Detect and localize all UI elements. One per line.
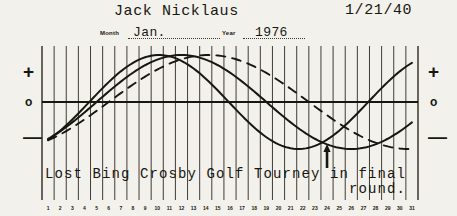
day-cell-13: 13 (188, 203, 200, 214)
day-cell-4: 4 (78, 203, 90, 214)
biorhythm-sheet: Jack Nicklaus 1/21/40 Month Jan. Year 19… (0, 0, 457, 216)
day-number-strip: 1234567891011121314151617181920212223242… (42, 203, 418, 214)
day-cell-23: 23 (309, 203, 321, 214)
day-cell-19: 19 (260, 203, 272, 214)
day-cell-26: 26 (345, 203, 357, 214)
day-cell-8: 8 (127, 203, 139, 214)
day-cell-16: 16 (224, 203, 236, 214)
day-cell-5: 5 (91, 203, 103, 214)
day-cell-18: 18 (248, 203, 260, 214)
day-cell-28: 28 (369, 203, 381, 214)
day-cell-15: 15 (212, 203, 224, 214)
day-cell-1: 1 (42, 203, 54, 214)
day-cell-9: 9 (139, 203, 151, 214)
day-cell-11: 11 (163, 203, 175, 214)
day-cell-14: 14 (200, 203, 212, 214)
day-cell-29: 29 (382, 203, 394, 214)
day-marker-arrow (323, 144, 330, 168)
day-cell-24: 24 (321, 203, 333, 214)
day-cell-22: 22 (297, 203, 309, 214)
day-cell-27: 27 (357, 203, 369, 214)
day-cell-25: 25 (333, 203, 345, 214)
day-cell-17: 17 (236, 203, 248, 214)
caption-line-1: Lost Bing Crosby Golf Tourney in final (45, 166, 406, 182)
day-cell-3: 3 (66, 203, 78, 214)
day-cell-31: 31 (406, 203, 418, 214)
day-cell-12: 12 (175, 203, 187, 214)
caption-line-2: round. (349, 181, 406, 197)
day-cell-6: 6 (103, 203, 115, 214)
day-cell-30: 30 (394, 203, 406, 214)
day-cell-10: 10 (151, 203, 163, 214)
day-cell-7: 7 (115, 203, 127, 214)
day-cell-2: 2 (54, 203, 66, 214)
day-cell-20: 20 (272, 203, 284, 214)
day-cell-21: 21 (285, 203, 297, 214)
